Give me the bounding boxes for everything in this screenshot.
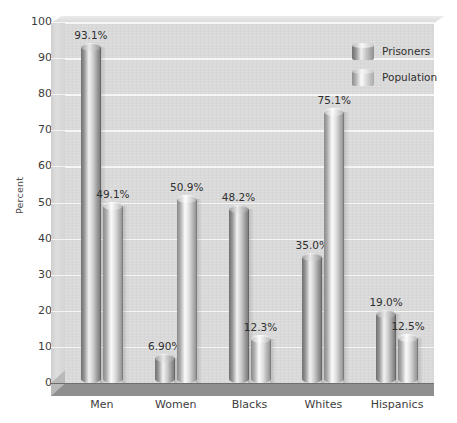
bar-body [103, 206, 123, 383]
bar-top-ellipse [302, 253, 322, 261]
bar-body [177, 199, 197, 383]
x-axis-label-women: Women [155, 398, 196, 411]
side-wall-notch [51, 58, 65, 59]
gridline [65, 130, 434, 132]
bar-top-ellipse [155, 354, 175, 362]
gridline [65, 22, 434, 24]
legend-item-label: Population [382, 71, 437, 83]
bar-top-ellipse [251, 335, 271, 343]
bar-chart: Percent 0102030405060708090100 93.1%49.1… [0, 0, 457, 423]
gridline [65, 166, 434, 168]
y-axis-tick-label: 70 [18, 125, 52, 135]
side-wall-notch [51, 203, 65, 204]
bar-shadow [122, 206, 128, 383]
bar-population-whites: 75.1% [324, 112, 344, 383]
bar-value-label: 19.0% [369, 296, 402, 308]
side-wall-notch [51, 166, 65, 167]
plot-side-wall [51, 22, 65, 383]
bar-population-hispanics: 12.5% [398, 338, 418, 383]
y-axis-tick-label: 10 [18, 342, 52, 352]
y-axis-tick-label: 30 [18, 270, 52, 280]
bar-population-women: 50.9% [177, 199, 197, 383]
y-axis-tick-label: 80 [18, 89, 52, 99]
bar-top-ellipse [103, 202, 123, 210]
bar-top-ellipse [398, 334, 418, 342]
bar-value-label: 49.1% [96, 188, 129, 200]
bar-population-blacks: 12.3% [251, 339, 271, 383]
bar-prisoners-women: 6.90% [155, 358, 175, 383]
plot-floor [51, 383, 434, 396]
y-axis-tick-label: 50 [18, 198, 52, 208]
baseline [51, 383, 434, 384]
y-axis-tick-label: 0 [18, 378, 52, 388]
x-axis-label-blacks: Blacks [232, 398, 268, 411]
side-wall-notch [51, 22, 65, 23]
x-axis-label-hispanics: Hispanics [371, 398, 424, 411]
bar-body [324, 112, 344, 383]
x-axis-label-men: Men [90, 398, 113, 411]
side-wall-notch [51, 347, 65, 348]
y-axis-tick-label: 100 [18, 17, 52, 27]
bar-body [302, 257, 322, 383]
prisoners-cylinder-swatch [352, 45, 374, 60]
bar-population-men: 49.1% [103, 206, 123, 383]
plot-area: 93.1%49.1%6.90%50.9%48.2%12.3%35.0%75.1%… [65, 22, 434, 383]
x-axis-label-whites: Whites [304, 398, 342, 411]
y-axis-tick-label: 40 [18, 234, 52, 244]
side-wall-notch [51, 275, 65, 276]
bar-value-label: 50.9% [170, 181, 203, 193]
bar-body [81, 47, 101, 383]
bar-shadow [343, 112, 349, 383]
gridline [65, 58, 434, 60]
legend-item-label: Prisoners [382, 45, 430, 57]
bar-value-label: 75.1% [318, 94, 351, 106]
side-wall-notch [51, 239, 65, 240]
side-wall-notch [51, 94, 65, 95]
bar-top-ellipse [229, 205, 249, 213]
bar-shadow [270, 339, 276, 383]
y-axis-tick-label: 20 [18, 306, 52, 316]
side-wall-notch [51, 130, 65, 131]
bar-prisoners-men: 93.1% [81, 47, 101, 383]
bar-shadow [417, 338, 423, 383]
bar-top-ellipse [324, 108, 344, 116]
y-axis-tick-label: 90 [18, 53, 52, 63]
bar-body [398, 338, 418, 383]
bar-value-label: 93.1% [74, 29, 107, 41]
bar-top-ellipse [81, 43, 101, 51]
bar-prisoners-whites: 35.0% [302, 257, 322, 383]
y-axis-tick-label: 60 [18, 161, 52, 171]
bar-shadow [196, 199, 202, 383]
bar-body [251, 339, 271, 383]
population-cylinder-swatch [352, 71, 374, 86]
y-axis-tick-labels: 0102030405060708090100 [12, 0, 52, 423]
bar-value-label: 12.5% [391, 320, 424, 332]
bar-body [229, 209, 249, 383]
side-wall-notch [51, 311, 65, 312]
bar-prisoners-blacks: 48.2% [229, 209, 249, 383]
bar-value-label: 12.3% [244, 321, 277, 333]
gridline [65, 94, 434, 96]
bar-value-label: 48.2% [222, 191, 255, 203]
